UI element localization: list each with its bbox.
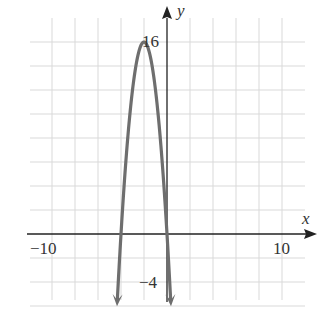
x-tick-label-neg10: −10	[30, 240, 57, 257]
x-axis-label: x	[302, 210, 310, 227]
graph-canvas	[0, 0, 334, 316]
y-tick-label-16: 16	[142, 33, 159, 50]
y-axis-label: y	[177, 2, 185, 19]
y-tick-label-neg4: −4	[139, 274, 157, 291]
x-tick-label-10: 10	[273, 240, 290, 257]
